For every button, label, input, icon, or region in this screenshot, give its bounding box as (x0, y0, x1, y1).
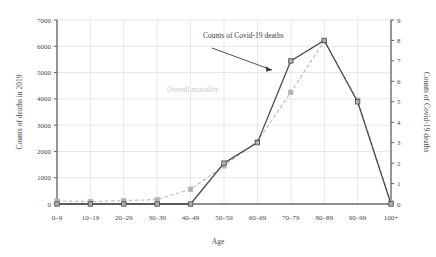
left-axis-tick-label: 6000 (37, 43, 52, 51)
right-axis-tick-label: 9 (397, 17, 401, 25)
x-axis-title: Age (212, 237, 225, 246)
covid-series-label: Counts of Covid-19 deaths (203, 31, 284, 40)
chart-container: 01000200030004000500060007000 0123456789… (0, 0, 436, 257)
left-axis-tick-label: 7000 (37, 17, 52, 25)
series-marker (389, 202, 393, 206)
right-axis-tick-label: 1 (397, 180, 401, 188)
series-marker (188, 187, 192, 191)
left-axis-tick-label: 4000 (37, 95, 52, 103)
left-y-axis-title: Counts of deaths in 2019 (15, 74, 24, 149)
x-axis-tick-label: 90–99 (349, 214, 367, 222)
right-y-axis-title: Counts of Covid-19 deaths (422, 72, 431, 153)
overall-mortality-series-label: Overall mortality (167, 85, 219, 94)
x-axis-tick-label: 30–39 (148, 214, 166, 222)
series-marker (188, 202, 192, 206)
right-axis-tick-label: 4 (397, 119, 401, 127)
left-axis-tick-label: 1000 (37, 174, 52, 182)
series-marker (88, 202, 92, 206)
x-axis-tick-label: 40–49 (182, 214, 200, 222)
left-axis-tick-label: 0 (48, 201, 52, 209)
series-marker (255, 140, 259, 144)
x-axis-tick-label: 60–69 (249, 214, 267, 222)
left-axis-tick-label: 2000 (37, 148, 52, 156)
x-axis-tick-label: 70–79 (282, 214, 300, 222)
series-marker (122, 202, 126, 206)
series-marker (322, 38, 326, 42)
right-axis-tick-label: 0 (397, 201, 401, 209)
right-axis-tick-label: 3 (397, 139, 401, 147)
right-axis-tick-label: 5 (397, 98, 401, 106)
right-axis-tick-label: 6 (397, 78, 401, 86)
series-marker (289, 90, 293, 94)
x-axis-tick-label: 10–19 (82, 214, 100, 222)
x-axis-tick-label: 20–29 (115, 214, 133, 222)
x-axis-tick-label: 80–89 (315, 214, 333, 222)
series-marker (289, 59, 293, 63)
series-marker (155, 197, 159, 201)
x-axis-tick-label: 0–9 (52, 214, 63, 222)
x-axis-tick-label: 100+ (384, 214, 399, 222)
left-axis-tick-label: 5000 (37, 69, 52, 77)
right-axis-tick-label: 7 (397, 57, 401, 65)
series-marker (155, 202, 159, 206)
right-axis-tick-label: 8 (397, 37, 401, 45)
age-mortality-dual-axis-line-chart: 01000200030004000500060007000 0123456789… (0, 0, 436, 257)
series-marker (355, 100, 359, 104)
series-marker (222, 161, 226, 165)
series-marker (55, 202, 59, 206)
left-axis-tick-label: 3000 (37, 122, 52, 130)
x-axis-tick-label: 50–59 (215, 214, 233, 222)
right-axis-tick-label: 2 (397, 160, 401, 168)
